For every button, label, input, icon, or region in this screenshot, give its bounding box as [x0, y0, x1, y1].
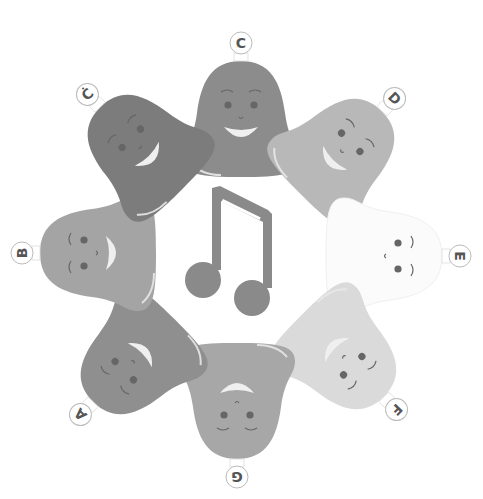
note-label: G — [231, 469, 243, 485]
left-eye-icon — [224, 101, 231, 108]
bell-circle-illustration: C D E F — [0, 0, 483, 499]
music-note-icon — [185, 186, 272, 316]
note-label: B — [14, 248, 30, 259]
left-eye-icon — [394, 239, 401, 246]
right-eye-icon — [220, 411, 227, 418]
note-label: E — [452, 251, 468, 261]
note-label: C — [236, 35, 246, 51]
right-eye-icon — [250, 101, 257, 108]
left-eye-icon — [246, 411, 253, 418]
bell-c2[interactable]: Ċ — [39, 46, 224, 231]
right-eye-icon — [394, 265, 401, 272]
right-eye-icon — [80, 236, 87, 243]
left-eye-icon — [80, 262, 87, 269]
